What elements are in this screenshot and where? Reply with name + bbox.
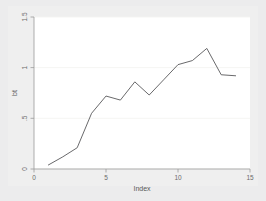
x-axis-ticks	[34, 169, 250, 173]
line-chart: 0 .5 1 1.5 0 5 10 15 Index bt	[0, 0, 266, 201]
x-tick-label-0: 0	[32, 174, 36, 181]
x-axis-title: Index	[133, 185, 151, 192]
x-tick-label-3: 15	[246, 174, 254, 181]
plot-area-background	[34, 17, 250, 169]
y-tick-label-1: .5	[21, 115, 28, 121]
y-tick-label-2: 1	[21, 65, 28, 69]
chart-figure: 0 .5 1 1.5 0 5 10 15 Index bt	[0, 0, 266, 201]
x-tick-label-2: 10	[174, 174, 182, 181]
y-tick-label-0: 0	[21, 167, 28, 171]
y-axis-ticks	[31, 17, 35, 169]
x-tick-label-1: 5	[104, 174, 108, 181]
y-tick-label-3: 1.5	[21, 12, 28, 21]
y-axis-title: bt	[11, 90, 18, 96]
